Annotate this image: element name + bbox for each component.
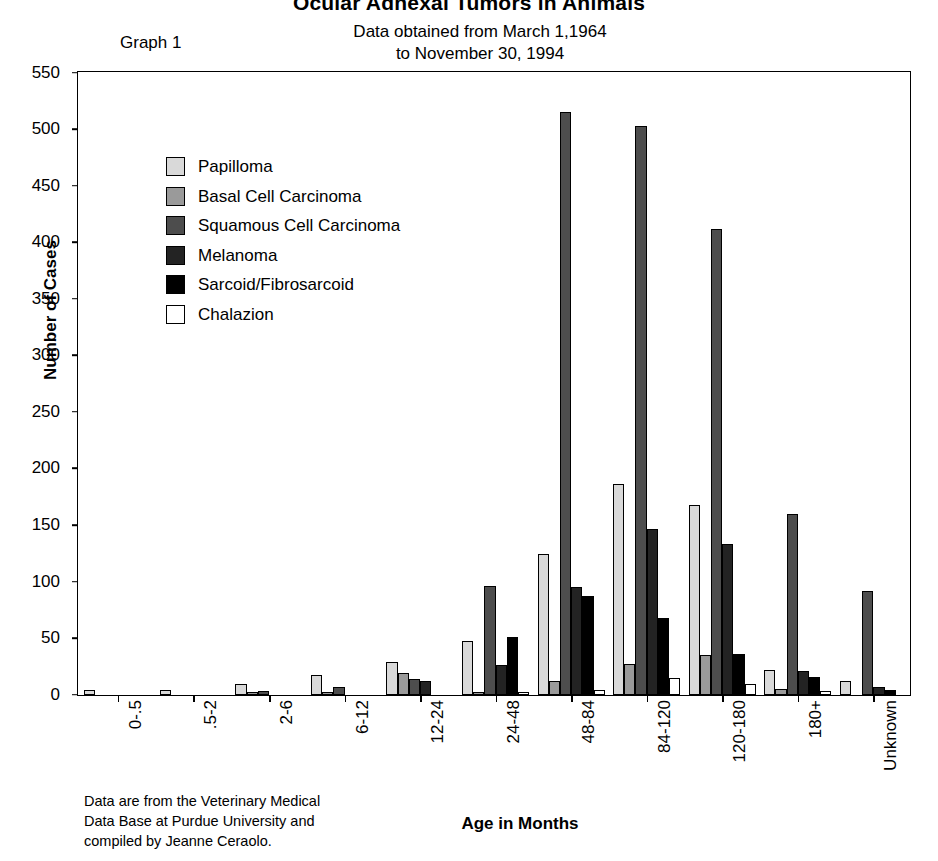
legend-swatch-icon xyxy=(166,187,185,206)
bar-squamous-cell-carcinoma-120180 xyxy=(711,229,722,695)
legend-swatch-icon xyxy=(166,275,185,294)
x-tick-label: 180+ xyxy=(806,700,826,738)
bar-papilloma-180+ xyxy=(764,670,775,695)
bar-basal-cell-carcinoma-180+ xyxy=(775,689,786,695)
data-range-caption: Data obtained from March 1,1964 to Novem… xyxy=(330,21,630,66)
bar-papilloma-84120 xyxy=(613,484,624,694)
data-range-line-2: to November 30, 1994 xyxy=(330,43,630,65)
bar-sarcoid-fibrosarcoid-Unknown xyxy=(885,690,896,695)
legend-label: Melanoma xyxy=(198,247,277,264)
bar-sarcoid-fibrosarcoid-120180 xyxy=(733,654,744,695)
bar-papilloma-120180 xyxy=(689,505,700,695)
y-tick-label: 400 xyxy=(32,232,60,252)
y-tick-label: 100 xyxy=(32,572,60,592)
bar-basal-cell-carcinoma-612 xyxy=(322,692,333,694)
y-tick-label: 550 xyxy=(32,63,60,83)
y-tick-label: 150 xyxy=(32,515,60,535)
bar-papilloma-52 xyxy=(160,690,171,695)
x-tick-label: 24-48 xyxy=(504,700,524,743)
x-tick-label: .5-2 xyxy=(201,700,221,729)
legend-item-squamous-cell-carcinoma: Squamous Cell Carcinoma xyxy=(166,216,400,235)
bar-basal-cell-carcinoma-26 xyxy=(247,692,258,694)
bar-sarcoid-fibrosarcoid-84120 xyxy=(658,618,669,695)
x-tick-label: 48-84 xyxy=(579,700,599,743)
page-title: Ocular Adnexal Tumors in Animals xyxy=(0,0,938,17)
x-tick-label: 120-180 xyxy=(730,700,750,762)
bar-squamous-cell-carcinoma-180+ xyxy=(787,514,798,695)
legend-label: Papilloma xyxy=(198,158,273,175)
bar-chalazion-180+ xyxy=(820,691,831,694)
chart-page: Ocular Adnexal Tumors in Animals Graph 1… xyxy=(0,0,938,861)
bar-chalazion-4884 xyxy=(594,690,605,695)
legend-swatch-icon xyxy=(166,216,185,235)
bar-basal-cell-carcinoma-1224 xyxy=(398,673,409,694)
legend-swatch-icon xyxy=(166,157,185,176)
y-tick-label: 250 xyxy=(32,402,60,422)
bar-papilloma-2448 xyxy=(462,641,473,694)
x-tick-label: 6-12 xyxy=(353,700,373,734)
bar-squamous-cell-carcinoma-2448 xyxy=(484,586,495,695)
y-tick-label: 450 xyxy=(32,176,60,196)
x-tick-label: 84-120 xyxy=(655,700,675,753)
y-tick-label: 500 xyxy=(32,119,60,139)
bar-papilloma-4884 xyxy=(538,554,549,694)
bar-chalazion-2448 xyxy=(518,692,529,694)
legend-item-melanoma: Melanoma xyxy=(166,246,400,265)
bar-melanoma-120180 xyxy=(722,544,733,694)
legend-swatch-icon xyxy=(166,305,185,324)
y-tick-label: 0 xyxy=(51,685,60,705)
legend-item-chalazion: Chalazion xyxy=(166,305,400,324)
bar-papilloma-Unknown xyxy=(840,681,851,695)
x-tick-label: Unknown xyxy=(881,700,901,771)
bar-melanoma-180+ xyxy=(798,671,809,695)
x-tick-label: 2-6 xyxy=(277,700,297,725)
bar-squamous-cell-carcinoma-612 xyxy=(333,687,344,695)
x-axis-title: Age in Months xyxy=(390,814,650,834)
bar-chalazion-120180 xyxy=(745,684,756,694)
x-axis-tick-labels: 0-.5.5-22-66-1212-2424-4848-8484-120120-… xyxy=(79,700,910,800)
y-tick-label: 300 xyxy=(32,345,60,365)
bar-melanoma-4884 xyxy=(571,587,582,694)
bar-sarcoid-fibrosarcoid-4884 xyxy=(582,596,593,694)
bar-papilloma-1224 xyxy=(386,662,397,695)
legend-label: Basal Cell Carcinoma xyxy=(198,188,361,205)
y-tick-label: 350 xyxy=(32,289,60,309)
bar-papilloma-05 xyxy=(84,690,95,695)
bar-squamous-cell-carcinoma-Unknown xyxy=(862,591,873,695)
legend-label: Squamous Cell Carcinoma xyxy=(198,217,400,234)
bar-melanoma-84120 xyxy=(647,529,658,694)
bar-melanoma-1224 xyxy=(420,681,431,695)
x-tick-label: 0-.5 xyxy=(126,700,146,729)
bar-chalazion-84120 xyxy=(669,678,680,695)
y-tick-label: 200 xyxy=(32,458,60,478)
legend-item-basal-cell-carcinoma: Basal Cell Carcinoma xyxy=(166,187,400,206)
graph-number-label: Graph 1 xyxy=(120,33,181,53)
data-range-line-1: Data obtained from March 1,1964 xyxy=(330,21,630,43)
legend-swatch-icon xyxy=(166,246,185,265)
x-tick-label: 12-24 xyxy=(428,700,448,743)
chart-legend: PapillomaBasal Cell CarcinomaSquamous Ce… xyxy=(166,157,400,324)
legend-item-papilloma: Papilloma xyxy=(166,157,400,176)
legend-label: Sarcoid/Fibrosarcoid xyxy=(198,276,354,293)
bar-melanoma-Unknown xyxy=(873,687,884,695)
legend-item-sarcoid-fibrosarcoid: Sarcoid/Fibrosarcoid xyxy=(166,275,400,294)
y-axis-ticks: 050100150200250300350400450500550 xyxy=(0,71,72,696)
bar-basal-cell-carcinoma-2448 xyxy=(473,692,484,694)
bar-melanoma-2448 xyxy=(496,665,507,694)
bar-squamous-cell-carcinoma-84120 xyxy=(635,126,646,695)
bar-papilloma-612 xyxy=(311,675,322,694)
bar-squamous-cell-carcinoma-4884 xyxy=(560,112,571,694)
y-tick-label: 50 xyxy=(41,628,60,648)
bar-squamous-cell-carcinoma-26 xyxy=(258,691,269,694)
bar-basal-cell-carcinoma-84120 xyxy=(624,664,635,695)
bar-basal-cell-carcinoma-120180 xyxy=(700,655,711,695)
bar-sarcoid-fibrosarcoid-180+ xyxy=(809,677,820,695)
bar-papilloma-26 xyxy=(235,684,246,694)
legend-label: Chalazion xyxy=(198,306,274,323)
bar-basal-cell-carcinoma-4884 xyxy=(549,681,560,695)
bar-sarcoid-fibrosarcoid-2448 xyxy=(507,637,518,695)
footnote-text: Data are from the Veterinary Medical Dat… xyxy=(84,791,320,851)
bar-squamous-cell-carcinoma-1224 xyxy=(409,679,420,695)
